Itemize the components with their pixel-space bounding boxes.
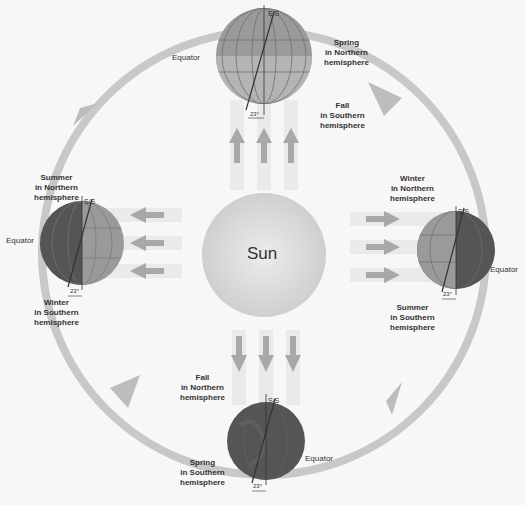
label-bottom-northern: Fallin Northernhemisphere: [180, 373, 225, 403]
equator-label-right: Equator: [490, 265, 518, 274]
svg-text:S/S: S/S: [268, 10, 280, 17]
sunlight-arrows-bottom: [231, 330, 301, 405]
orbit-arrow-top-right: [368, 82, 402, 116]
orbit-arrow-bottom-left: [110, 375, 140, 408]
equator-label-left: Equator: [6, 236, 34, 245]
label-left-southern: Winterin Southernhemisphere: [34, 298, 79, 328]
label-top-northern: Springin Northernhemisphere: [324, 38, 369, 68]
equator-label-top: Equator: [172, 53, 200, 62]
label-bottom-southern: Springin Southernhemisphere: [180, 458, 225, 488]
label-top-southern: Fallin Southernhemisphere: [320, 101, 365, 131]
svg-text:23°: 23°: [70, 288, 80, 294]
label-right-southern: Summerin Southernhemisphere: [390, 303, 435, 333]
svg-text:23°: 23°: [443, 291, 453, 297]
sun-label: Sun: [247, 244, 277, 264]
orbit-arrow-bottom-right: [386, 382, 402, 415]
svg-text:S/S: S/S: [458, 208, 470, 215]
svg-text:23°: 23°: [250, 111, 260, 117]
label-right-northern: Winterin Northernhemisphere: [390, 174, 435, 204]
svg-text:23°: 23°: [253, 483, 263, 489]
svg-text:S/S: S/S: [268, 397, 280, 404]
svg-text:S/S: S/S: [84, 198, 96, 205]
label-left-northern: Summerin Northernhemisphere: [34, 173, 79, 203]
equator-label-bottom: Equator: [305, 454, 333, 463]
